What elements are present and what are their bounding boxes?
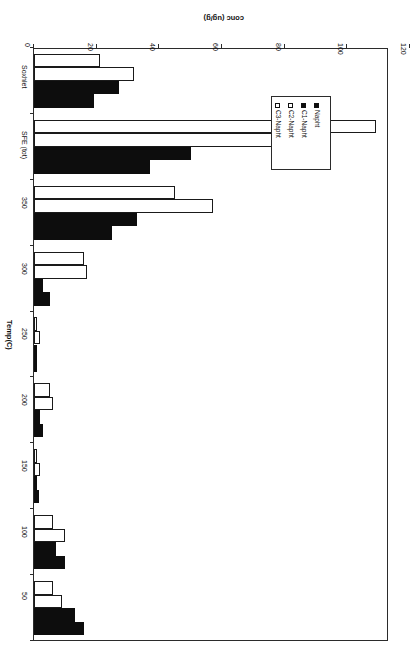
bar-c2-napht-350 bbox=[34, 199, 213, 213]
legend-entry-c2-napht: C2-Napht bbox=[288, 103, 295, 138]
bar-c2-napht-150 bbox=[34, 463, 40, 477]
bar-napht-150 bbox=[34, 490, 39, 504]
bar-napht-50 bbox=[34, 622, 84, 636]
category-axis-title: Temp(C) bbox=[5, 321, 14, 351]
bar-c2-napht-300 bbox=[34, 265, 87, 279]
value-axis-title: conc (ug/g) bbox=[204, 14, 244, 23]
legend-entry-c3-napht: C3-Napht bbox=[275, 103, 282, 138]
bar-c3-napht-150 bbox=[34, 449, 37, 463]
category-label-150: 150 bbox=[21, 460, 28, 472]
bar-napht-100 bbox=[34, 556, 65, 570]
legend-swatch-c2-napht bbox=[288, 103, 293, 108]
value-tick bbox=[158, 44, 159, 48]
category-label-250: 250 bbox=[21, 329, 28, 341]
bar-c1-napht-50 bbox=[34, 608, 75, 622]
category-label-50: 50 bbox=[21, 592, 28, 600]
category-tick bbox=[30, 574, 34, 575]
value-tick bbox=[96, 44, 97, 48]
value-tick bbox=[284, 44, 285, 48]
bar-napht-sfe-tot- bbox=[34, 160, 150, 174]
rotated-figure-wrapper: 020406080100120 conc (ug/g) 501001502002… bbox=[0, 0, 420, 659]
category-label-200: 200 bbox=[21, 394, 28, 406]
category-tick bbox=[30, 442, 34, 443]
value-tick-label: 40 bbox=[149, 43, 156, 51]
legend-entries: NaphtC1-NaphtC2-NaphtC3-Napht bbox=[270, 95, 330, 169]
bar-c3-napht-50 bbox=[34, 581, 53, 595]
value-tick-label: 120 bbox=[400, 43, 407, 55]
value-tick bbox=[346, 44, 347, 48]
category-label-sfe-tot-: SFE (tot) bbox=[21, 131, 28, 159]
bar-c1-napht-sfe-tot- bbox=[34, 147, 191, 161]
category-tick bbox=[30, 179, 34, 180]
bar-c3-napht-250 bbox=[34, 318, 37, 332]
bar-c3-napht-300 bbox=[34, 252, 84, 266]
bar-c1-napht-250 bbox=[34, 345, 37, 359]
bar-c2-napht-250 bbox=[34, 331, 40, 345]
legend: NaphtC1-NaphtC2-NaphtC3-Napht bbox=[271, 96, 331, 170]
bar-c2-napht-100 bbox=[34, 529, 65, 543]
bar-napht-250 bbox=[34, 358, 37, 372]
category-tick bbox=[30, 47, 34, 48]
bar-napht-300 bbox=[34, 292, 50, 306]
value-tick-label: 80 bbox=[275, 43, 282, 51]
category-label-100: 100 bbox=[21, 526, 28, 538]
legend-label: C3-Napht bbox=[275, 110, 282, 138]
category-label-350: 350 bbox=[21, 197, 28, 209]
bar-c1-napht-150 bbox=[34, 476, 37, 490]
legend-swatch-c1-napht bbox=[301, 103, 306, 108]
bar-c2-napht-sfe-tot- bbox=[34, 133, 307, 147]
bar-napht-200 bbox=[34, 424, 43, 438]
bar-napht-soxhlet bbox=[34, 94, 94, 108]
bar-c1-napht-soxhlet bbox=[34, 81, 119, 95]
bar-c3-napht-100 bbox=[34, 515, 53, 529]
legend-swatch-c3-napht bbox=[275, 103, 280, 108]
bar-c2-napht-50 bbox=[34, 595, 62, 609]
bar-c3-napht-350 bbox=[34, 186, 175, 200]
value-tick-label: 20 bbox=[87, 43, 94, 51]
bar-c3-napht-200 bbox=[34, 383, 50, 397]
value-tick-label: 100 bbox=[337, 43, 344, 55]
legend-label: C1-Napht bbox=[301, 110, 308, 138]
bar-c2-napht-200 bbox=[34, 397, 53, 411]
category-tick bbox=[30, 508, 34, 509]
legend-swatch-napht bbox=[314, 103, 319, 108]
value-tick-label: 60 bbox=[212, 43, 219, 51]
bar-c1-napht-350 bbox=[34, 213, 137, 227]
bar-c3-napht-soxhlet bbox=[34, 54, 100, 68]
value-tick bbox=[409, 44, 410, 48]
bar-napht-350 bbox=[34, 226, 112, 240]
bar-chart: 020406080100120 conc (ug/g) 501001502002… bbox=[0, 0, 420, 659]
category-tick bbox=[30, 640, 34, 641]
category-tick bbox=[30, 311, 34, 312]
category-label-soxhlet: Soxhlet bbox=[21, 65, 28, 88]
bar-c1-napht-100 bbox=[34, 542, 56, 556]
category-tick bbox=[30, 245, 34, 246]
bar-c2-napht-soxhlet bbox=[34, 67, 134, 81]
legend-label: C2-Napht bbox=[288, 110, 295, 138]
legend-entry-c1-napht: C1-Napht bbox=[301, 103, 308, 138]
legend-label: Napht bbox=[314, 110, 321, 127]
category-label-300: 300 bbox=[21, 263, 28, 275]
value-tick bbox=[221, 44, 222, 48]
bar-c1-napht-200 bbox=[34, 410, 40, 424]
bar-c1-napht-300 bbox=[34, 279, 43, 293]
legend-entry-napht: Napht bbox=[314, 103, 321, 127]
category-tick bbox=[30, 113, 34, 114]
category-tick bbox=[30, 376, 34, 377]
bars-layer bbox=[0, 0, 420, 659]
